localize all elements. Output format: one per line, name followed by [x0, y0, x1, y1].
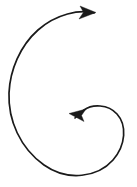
- spiral-arrow-svg: [0, 0, 137, 187]
- figure-background: [0, 0, 137, 187]
- spiral-arrow-figure: Spiral arrow Hand-drawn style spiral cur…: [0, 0, 137, 187]
